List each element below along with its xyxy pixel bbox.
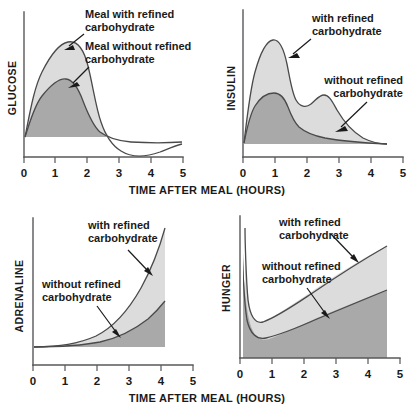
x-tick-label-2: 2 (301, 368, 307, 380)
x-tick-label-1: 1 (52, 167, 59, 179)
y-axis-label-insulin: INSULIN (225, 66, 237, 111)
x-tick-label-3: 3 (116, 167, 122, 179)
panel-hunger: 0 1 2 3 4 5 HUNGER with refined carbohyd… (207, 208, 414, 416)
x-tick-label-2: 2 (94, 375, 100, 387)
x-ticks-insulin (243, 157, 403, 163)
four-panel-figure: 0 1 2 3 4 5 GLUCOSE Meal with refined ca… (0, 0, 414, 416)
arrow-to-with-refined-curve (128, 250, 153, 276)
x-ticks-adrenaline (33, 365, 193, 371)
annotation-with-refined-line1: Meal with refined (85, 8, 174, 20)
x-tick-label-3: 3 (336, 167, 342, 179)
annotation-with-refined-line1: with refined (278, 216, 341, 228)
x-ticks-hunger (240, 358, 400, 364)
x-tick-label-5: 5 (180, 167, 187, 179)
x-tick-label-4: 4 (368, 167, 375, 179)
x-axis-caption-bottom-row: TIME AFTER MEAL (HOURS) (0, 392, 414, 404)
x-tick-label-4: 4 (158, 375, 165, 387)
x-tick-label-5: 5 (400, 167, 407, 179)
x-tick-label-5: 5 (397, 368, 404, 380)
annotation-without-refined-line1: without refined (323, 74, 403, 86)
annotation-with-refined-line2: carbohydrate (85, 21, 155, 33)
x-tick-label-0: 0 (240, 167, 246, 179)
y-axis-label-hunger: HUNGER (220, 264, 232, 312)
arrow-to-with-refined-curve (288, 39, 311, 58)
panel-glucose: 0 1 2 3 4 5 GLUCOSE Meal with refined ca… (0, 0, 207, 208)
annotation-with-refined-line2: carbohydrate (312, 25, 382, 37)
annotation-without-refined-line2: carbohydrate (85, 53, 155, 65)
x-tick-label-1: 1 (272, 167, 279, 179)
annotation-with-refined-line1: with refined (87, 219, 150, 231)
annotation-with-refined-line1: with refined (311, 12, 374, 24)
x-tick-label-3: 3 (126, 375, 132, 387)
annotation-without-refined-line2: carbohydrate (262, 273, 332, 285)
x-tick-label-1: 1 (62, 375, 69, 387)
area-glucose-undershoot (106, 134, 182, 154)
x-tick-label-3: 3 (333, 368, 339, 380)
x-tick-label-5: 5 (190, 375, 197, 387)
x-tick-label-4: 4 (365, 368, 372, 380)
panel-adrenaline: 0 1 2 3 4 5 ADRENALINE with refined carb… (0, 208, 207, 416)
x-tick-label-0: 0 (30, 375, 36, 387)
annotation-with-refined-line2: carbohydrate (279, 229, 349, 241)
x-tick-label-4: 4 (148, 167, 155, 179)
annotation-without-refined-line1: Meal without refined (85, 40, 191, 52)
annotation-without-refined-line1: without refined (41, 278, 121, 290)
panel-insulin: 0 1 2 3 4 5 INSULIN with refined carbohy… (207, 0, 414, 208)
x-tick-label-2: 2 (84, 167, 90, 179)
annotation-without-refined-line1: without refined (261, 260, 341, 272)
x-tick-label-0: 0 (21, 167, 27, 179)
x-tick-label-2: 2 (304, 167, 310, 179)
x-tick-label-1: 1 (269, 368, 276, 380)
x-tick-label-0: 0 (237, 368, 243, 380)
y-axis-label-adrenaline: ADRENALINE (13, 260, 25, 333)
x-axis-caption-top-row: TIME AFTER MEAL (HOURS) (0, 184, 414, 196)
annotation-with-refined-line2: carbohydrate (88, 232, 158, 244)
annotation-without-refined-line2: carbohydrate (42, 291, 112, 303)
annotation-without-refined-line2: carbohydrate (333, 87, 403, 99)
y-axis-label-glucose: GLUCOSE (6, 61, 18, 116)
x-ticks-glucose (24, 157, 183, 163)
